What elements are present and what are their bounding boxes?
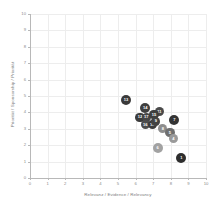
y-tick-label: 4: [15, 109, 26, 115]
y-tick-label: 7: [15, 60, 26, 66]
y-axis-label: Priorität / Sponsorship / Priorität: [10, 15, 15, 175]
scatter-point[interactable]: 13: [121, 95, 131, 105]
x-tick-mark: [171, 178, 172, 180]
y-tick-mark: [28, 63, 30, 64]
x-tick-mark: [65, 178, 66, 180]
x-tick-label: 3: [78, 181, 88, 187]
y-tick-mark: [28, 162, 30, 163]
x-tick-label: 4: [95, 181, 105, 187]
gridline-horizontal: [30, 129, 206, 130]
x-tick-label: 5: [113, 181, 123, 187]
x-axis-label: Relevanz / Evidence / Relevancy: [30, 192, 206, 197]
x-tick-label: 10: [201, 181, 211, 187]
y-axis-line: [30, 14, 31, 178]
x-tick-mark: [206, 178, 207, 180]
x-tick-mark: [136, 178, 137, 180]
x-tick-label: 0: [25, 181, 35, 187]
y-tick-mark: [28, 178, 30, 179]
x-tick-label: 1: [43, 181, 53, 187]
x-tick-mark: [118, 178, 119, 180]
y-tick-label: 0: [15, 175, 26, 181]
y-tick-mark: [28, 112, 30, 113]
x-tick-label: 6: [131, 181, 141, 187]
x-tick-mark: [48, 178, 49, 180]
y-tick-mark: [28, 30, 30, 31]
gridline-horizontal: [30, 14, 206, 15]
y-tick-label: 2: [15, 142, 26, 148]
y-tick-mark: [28, 80, 30, 81]
y-tick-label: 9: [15, 27, 26, 33]
y-tick-label: 5: [15, 93, 26, 99]
x-tick-label: 8: [166, 181, 176, 187]
y-tick-label: 10: [15, 11, 26, 17]
x-tick-mark: [30, 178, 31, 180]
y-tick-mark: [28, 145, 30, 146]
x-tick-label: 7: [148, 181, 158, 187]
x-tick-mark: [83, 178, 84, 180]
gridline-vertical: [206, 14, 207, 178]
y-tick-label: 6: [15, 77, 26, 83]
y-tick-label: 3: [15, 126, 26, 132]
gridline-horizontal: [30, 80, 206, 81]
gridline-horizontal: [30, 63, 206, 64]
gridline-horizontal: [30, 145, 206, 146]
x-tick-mark: [188, 178, 189, 180]
gridline-horizontal: [30, 96, 206, 97]
y-tick-mark: [28, 14, 30, 15]
x-tick-mark: [100, 178, 101, 180]
x-tick-mark: [153, 178, 154, 180]
gridline-horizontal: [30, 112, 206, 113]
scatter-chart-screenshot: Relevanz / Evidence / Relevancy Prioritä…: [0, 0, 221, 212]
y-tick-mark: [28, 47, 30, 48]
x-tick-label: 9: [183, 181, 193, 187]
y-tick-label: 1: [15, 159, 26, 165]
y-tick-mark: [28, 96, 30, 97]
x-tick-label: 2: [60, 181, 70, 187]
y-tick-mark: [28, 129, 30, 130]
scatter-point[interactable]: 6: [153, 143, 163, 153]
gridline-horizontal: [30, 47, 206, 48]
gridline-horizontal: [30, 30, 206, 31]
y-tick-label: 8: [15, 44, 26, 50]
